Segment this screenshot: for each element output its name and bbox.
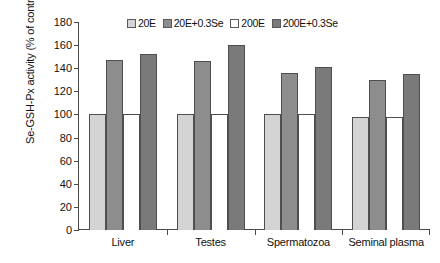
bar	[89, 114, 106, 230]
bar-group	[255, 22, 343, 230]
y-tick-label-4: 100	[34, 109, 72, 119]
x-separator-tick-1	[167, 230, 168, 235]
bar	[315, 67, 332, 230]
y-tick-label-1: 160	[34, 40, 72, 50]
y-tick-label-9: 0	[34, 225, 72, 235]
x-axis-labels: LiverTestesSpermatozoaSeminal plasma	[79, 236, 430, 248]
bar	[194, 61, 211, 230]
x-separator-tick-3	[342, 230, 343, 235]
y-tick-label-7: 40	[34, 179, 72, 189]
y-tick-label-5: 80	[34, 133, 72, 143]
bar-group	[342, 22, 430, 230]
plot-area: 180160140120100806040200	[78, 22, 430, 230]
bar	[106, 60, 123, 230]
y-tick-mark-9	[74, 230, 79, 231]
bar	[403, 74, 420, 230]
bar	[281, 73, 298, 230]
bar	[298, 114, 315, 230]
bar	[352, 117, 369, 230]
bar-groups	[79, 22, 430, 230]
x-separator-tick-2	[255, 230, 256, 235]
bar	[228, 45, 245, 230]
x-axis-label-3: Seminal plasma	[342, 236, 430, 248]
y-tick-label-8: 20	[34, 202, 72, 212]
y-tick-label-2: 140	[34, 63, 72, 73]
y-tick-label-0: 180	[34, 17, 72, 27]
bar	[123, 114, 140, 230]
x-separator-tick-end	[429, 230, 430, 235]
bar	[264, 114, 281, 230]
x-axis-label-2: Spermatozoa	[255, 236, 343, 248]
bar	[140, 54, 157, 230]
bar	[386, 117, 403, 230]
x-axis-label-0: Liver	[79, 236, 167, 248]
bar	[211, 114, 228, 230]
y-tick-label-3: 120	[34, 86, 72, 96]
bar	[369, 80, 386, 230]
bar-group	[167, 22, 255, 230]
x-axis-label-1: Testes	[167, 236, 255, 248]
bar	[177, 114, 194, 230]
bar-chart: Se-GSH-Px activity (% of control) 20E 20…	[0, 0, 440, 263]
y-tick-label-6: 60	[34, 156, 72, 166]
bar-group	[79, 22, 167, 230]
